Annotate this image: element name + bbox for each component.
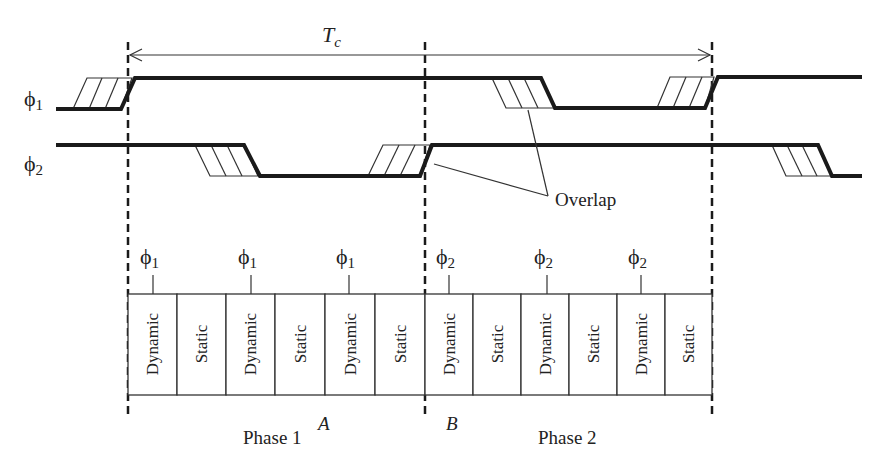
logic-stage-row: Dynamic Static Dynamic Static Dynamic St… bbox=[128, 294, 712, 395]
svg-text:Static: Static bbox=[291, 324, 310, 363]
stage-clock-labels: ϕ1 ϕ1 ϕ1 ϕ2 ϕ2 ϕ2 bbox=[140, 244, 647, 294]
svg-text:Dynamic: Dynamic bbox=[632, 312, 651, 375]
svg-text:Static: Static bbox=[391, 324, 410, 363]
phi1-transition-hatches bbox=[73, 77, 714, 109]
point-a-label: A bbox=[316, 413, 330, 434]
svg-text:Dynamic: Dynamic bbox=[341, 312, 360, 375]
phi2-transition-hatches bbox=[195, 145, 832, 176]
svg-text:Dynamic: Dynamic bbox=[440, 312, 459, 375]
svg-text:Static: Static bbox=[679, 324, 698, 363]
phi1-waveform bbox=[56, 77, 862, 109]
svg-text:ϕ1: ϕ1 bbox=[140, 244, 159, 271]
point-b-label: B bbox=[446, 413, 458, 434]
phi1-label: ϕ1 bbox=[24, 86, 43, 113]
phi2-label: ϕ2 bbox=[24, 151, 43, 178]
overlap-pointers bbox=[434, 110, 548, 196]
svg-text:ϕ2: ϕ2 bbox=[534, 244, 553, 271]
svg-text:Static: Static bbox=[488, 324, 507, 363]
clock-timing-diagram: Tc ϕ1 ϕ2 bbox=[0, 0, 888, 462]
phase1-label: Phase 1 bbox=[243, 427, 302, 448]
svg-text:Static: Static bbox=[584, 324, 603, 363]
svg-text:Dynamic: Dynamic bbox=[241, 312, 260, 375]
svg-text:Dynamic: Dynamic bbox=[143, 312, 162, 375]
period-label: Tc bbox=[322, 22, 341, 50]
svg-text:ϕ2: ϕ2 bbox=[628, 244, 647, 271]
svg-text:ϕ1: ϕ1 bbox=[336, 244, 355, 271]
overlap-label: Overlap bbox=[555, 189, 616, 210]
svg-text:ϕ1: ϕ1 bbox=[238, 244, 257, 271]
svg-text:Dynamic: Dynamic bbox=[536, 312, 555, 375]
svg-text:ϕ2: ϕ2 bbox=[436, 244, 455, 271]
period-arrow bbox=[130, 49, 710, 61]
phase2-label: Phase 2 bbox=[538, 427, 597, 448]
svg-text:Static: Static bbox=[192, 324, 211, 363]
